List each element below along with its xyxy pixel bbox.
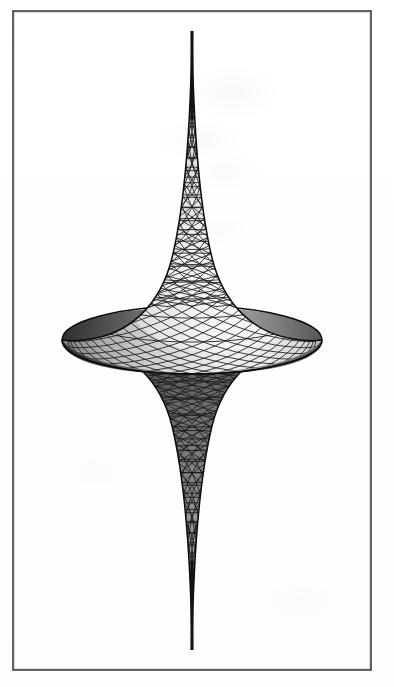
figure-page xyxy=(0,0,394,687)
pseudosphere-figure xyxy=(0,0,394,687)
figure-panel xyxy=(0,0,394,687)
